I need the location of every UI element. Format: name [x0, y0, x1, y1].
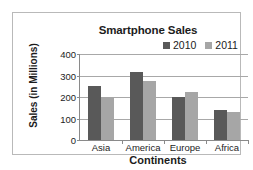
- x-tick-label-america: America: [126, 142, 161, 153]
- x-tick-label-europe: Europe: [170, 142, 201, 153]
- x-tick-label-africa: Africa: [215, 142, 239, 153]
- bar-america-2011: [143, 81, 156, 140]
- bar-group: [80, 54, 122, 140]
- chart-figure-frame: Smartphone Sales 2010 2011 Sales (in Mil…: [12, 12, 241, 155]
- chart-title: Smartphone Sales: [73, 24, 223, 36]
- y-tick-label: 300: [60, 70, 76, 81]
- bars: [80, 54, 248, 140]
- y-tick-label: 400: [60, 49, 76, 60]
- legend-item-2010: 2010: [163, 40, 196, 51]
- bar-asia-2011: [101, 97, 114, 140]
- x-tick-mark: [248, 140, 249, 144]
- bar-africa-2011: [227, 112, 240, 140]
- bar-africa-2010: [214, 110, 227, 140]
- legend-swatch-2011: [205, 42, 212, 49]
- y-tick-mark: [77, 140, 80, 141]
- x-tick-label-asia: Asia: [92, 142, 110, 153]
- legend-label-2010: 2010: [173, 40, 196, 51]
- legend-item-2011: 2011: [205, 40, 238, 51]
- bar-group: [164, 54, 206, 140]
- y-tick-label: 0: [71, 135, 76, 146]
- legend-swatch-2010: [163, 42, 170, 49]
- bar-america-2010: [130, 72, 143, 140]
- bar-europe-2010: [172, 97, 185, 140]
- legend-label-2011: 2011: [215, 40, 238, 51]
- x-tick-mark: [122, 140, 123, 144]
- bar-europe-2011: [185, 92, 198, 140]
- y-tick-label: 200: [60, 92, 76, 103]
- x-tick-mark: [164, 140, 165, 144]
- bar-group: [206, 54, 248, 140]
- y-axis-title: Sales (in Millions): [28, 35, 39, 137]
- bar-group: [122, 54, 164, 140]
- x-axis-title: Continents: [68, 154, 248, 166]
- y-tick-label: 100: [60, 113, 76, 124]
- chart-legend: 2010 2011: [163, 40, 238, 51]
- bar-asia-2010: [88, 86, 101, 140]
- x-tick-mark: [206, 140, 207, 144]
- plot-area: 0100200300400 AsiaAmericaEuropeAfrica: [79, 54, 248, 141]
